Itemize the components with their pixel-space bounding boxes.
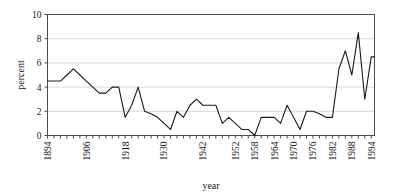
x-tick-label: 1976 xyxy=(308,141,318,160)
x-tick-label: 1988 xyxy=(347,141,357,160)
x-tick-label: 1894 xyxy=(43,141,53,160)
y-tick-label: 6 xyxy=(37,58,42,68)
x-tick-label: 1982 xyxy=(328,141,338,160)
x-axis-title: year xyxy=(202,180,220,191)
x-tick-label: 1930 xyxy=(159,141,169,160)
y-tick-label: 4 xyxy=(37,83,42,93)
line-chart: 0246810 18941906191819301942195219581964… xyxy=(0,0,399,196)
y-tick-label: 8 xyxy=(37,34,42,44)
x-tick-label: 1970 xyxy=(289,141,299,160)
y-tick-label: 2 xyxy=(37,107,42,117)
chart-container: 0246810 18941906191819301942195219581964… xyxy=(0,0,399,196)
x-tick-label: 1918 xyxy=(121,141,131,160)
y-axis-title: percent xyxy=(15,60,26,90)
x-tick-label: 1942 xyxy=(198,141,208,160)
x-tick-label: 1964 xyxy=(270,141,280,160)
x-tick-label: 1994 xyxy=(367,141,377,160)
x-tick-label: 1906 xyxy=(82,141,92,160)
x-tick-label: 1952 xyxy=(231,141,241,160)
chart-background xyxy=(0,0,399,196)
y-tick-label: 10 xyxy=(32,10,42,20)
y-tick-label: 0 xyxy=(37,131,42,141)
x-tick-label: 1958 xyxy=(250,141,260,160)
